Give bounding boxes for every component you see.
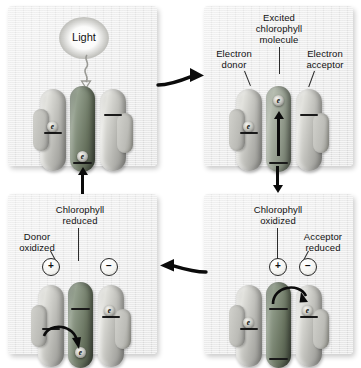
electron-acceptor-label: Electron acceptor: [300, 48, 350, 70]
acceptor-bump: [117, 113, 133, 153]
arrow-panel3-to-panel4: [157, 258, 207, 282]
photon-squiggle-arrow-icon: [74, 54, 100, 90]
chlorophyll-positive-charge: +: [269, 258, 287, 276]
donor-slot: [240, 132, 258, 134]
arrow-panel4-to-panel1: [81, 174, 84, 194]
panel-4: Chlorophyll reduced Donor oxidized + − e…: [8, 194, 157, 354]
electron-marker: e: [243, 317, 254, 328]
acceptor-slot: [104, 114, 122, 116]
leader-line: [277, 228, 278, 260]
donor-positive-charge: +: [42, 258, 60, 276]
arrow-panel2-to-panel3: [276, 166, 279, 186]
donor-bump: [229, 109, 245, 151]
electron-marker: e: [104, 305, 115, 316]
chlorophyll-slot-lower: [269, 358, 288, 360]
acceptor-slot: [300, 114, 318, 116]
acceptor-slot: [102, 316, 120, 318]
leader-line: [308, 71, 315, 87]
chlorophyll-reduced-label: Chlorophyll reduced: [46, 204, 114, 226]
electron-marker: e: [273, 95, 284, 106]
electron-marker: e: [243, 121, 254, 132]
electron-marker: e: [77, 151, 88, 162]
donor-slot: [240, 328, 258, 330]
donor-bump: [229, 305, 245, 347]
electron-acceptor-protein: [98, 285, 124, 367]
electron-donor-label: Electron donor: [210, 48, 258, 70]
electron-acceptor-protein: [296, 89, 322, 171]
up-arrow-icon: [277, 118, 280, 156]
light-label: Light: [59, 31, 109, 43]
acceptor-bump: [313, 113, 329, 153]
curved-electron-transfer-arrow-icon: [41, 318, 87, 354]
acceptor-slot: [300, 316, 318, 318]
leader-line: [78, 228, 79, 261]
chlorophyll-oxidized-label: Chlorophyll oxidized: [244, 204, 312, 226]
chlorophyll-slot: [71, 308, 90, 310]
electron-acceptor-protein: [100, 89, 126, 171]
curved-electron-transfer-arrow-icon: [269, 278, 315, 312]
donor-oxidized-label: Donor oxidized: [12, 231, 62, 253]
panel-2: Excited chlorophyll molecule Electron do…: [204, 6, 353, 166]
acceptor-bump: [313, 309, 329, 349]
excited-chlorophyll-label: Excited chlorophyll molecule: [246, 12, 312, 45]
chlorophyll-slot: [73, 162, 92, 164]
acceptor-reduced-label: Acceptor reduced: [296, 231, 350, 253]
leader-line: [244, 71, 251, 86]
donor-slot: [44, 132, 62, 134]
leader-line: [279, 47, 280, 74]
chlorophyll-slot: [269, 162, 288, 164]
acceptor-bump: [115, 309, 131, 349]
electron-marker: e: [47, 121, 58, 132]
acceptor-negative-charge: −: [100, 258, 118, 276]
panel-1: Light e e: [8, 6, 157, 166]
panel-3: Chlorophyll oxidized Acceptor reduced + …: [204, 194, 353, 354]
acceptor-negative-charge: −: [299, 258, 317, 276]
donor-bump: [33, 109, 49, 151]
arrow-panel1-to-panel2: [157, 66, 207, 92]
